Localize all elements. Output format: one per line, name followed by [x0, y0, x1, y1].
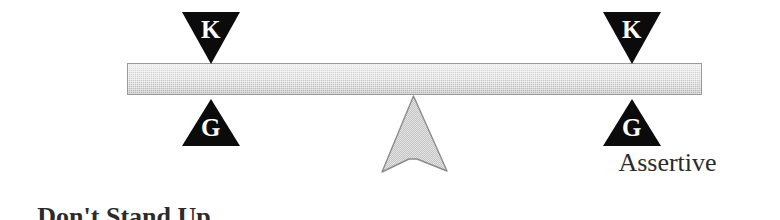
- marker-group-right: K G: [572, 0, 692, 160]
- left-label: Don't Stand Up For Myself: [0, 144, 248, 220]
- right-g-marker: G: [603, 99, 661, 146]
- left-k-marker-label: K: [182, 17, 240, 42]
- balance-scale-diagram: K G K G Do: [0, 0, 780, 220]
- right-k-marker-label: K: [603, 17, 661, 42]
- marker-group-left: K G: [151, 0, 271, 160]
- left-g-marker-label: G: [182, 115, 240, 140]
- right-g-marker-label: G: [603, 115, 661, 140]
- left-label-line-1: Don't Stand Up: [0, 202, 248, 220]
- right-label: Assertive: [560, 148, 775, 177]
- left-g-marker: G: [182, 99, 240, 146]
- left-k-marker: K: [182, 12, 240, 64]
- fulcrum-arrow: [381, 95, 448, 173]
- right-k-marker: K: [603, 12, 661, 64]
